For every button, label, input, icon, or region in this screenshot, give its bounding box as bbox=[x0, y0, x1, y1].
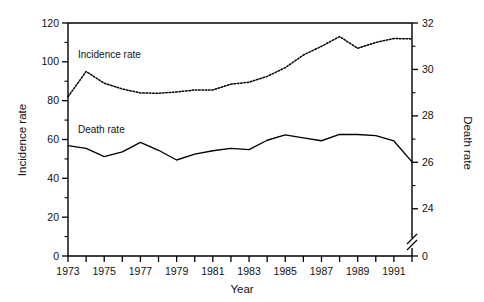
x-axis-title: Year bbox=[230, 283, 253, 295]
right-tick-label: 28 bbox=[422, 109, 434, 121]
x-tick-label: 1985 bbox=[274, 265, 298, 277]
x-tick-label: 1983 bbox=[237, 265, 261, 277]
x-tick-label: 1973 bbox=[56, 265, 80, 277]
left-tick-label: 80 bbox=[47, 94, 59, 106]
left-axis-tick-labels: 020406080100120 bbox=[41, 17, 59, 262]
y-axis-title-left: Incidence rate bbox=[16, 104, 28, 176]
incidence-rate-annotation: Incidence rate bbox=[78, 49, 141, 60]
right-tick-label-zero: 0 bbox=[422, 250, 428, 262]
chart-figure: 020406080100120 24262830320 197319751977… bbox=[0, 0, 484, 302]
left-tick-label: 100 bbox=[41, 55, 59, 67]
right-axis-tick-labels: 24262830320 bbox=[422, 17, 434, 262]
left-tick-label: 0 bbox=[53, 250, 59, 262]
left-tick-label: 20 bbox=[47, 211, 59, 223]
y-axis-title-right: Death rate bbox=[462, 116, 474, 170]
right-tick-label: 30 bbox=[422, 63, 434, 75]
series-line-incidence-rate bbox=[68, 37, 412, 97]
x-tick-label: 1989 bbox=[346, 265, 370, 277]
x-tick-label: 1991 bbox=[382, 265, 406, 277]
death-rate-annotation: Death rate bbox=[78, 124, 125, 135]
x-tick-label: 1979 bbox=[165, 265, 189, 277]
right-axis-ticks bbox=[412, 23, 418, 256]
x-axis-tick-labels: 1973197519771979198119831985198719891991 bbox=[56, 265, 405, 277]
dual-axis-line-chart: 020406080100120 24262830320 197319751977… bbox=[0, 0, 484, 302]
series-line-death-rate bbox=[68, 134, 412, 161]
right-tick-label: 24 bbox=[422, 202, 434, 214]
left-tick-label: 40 bbox=[47, 172, 59, 184]
x-tick-label: 1981 bbox=[201, 265, 225, 277]
x-tick-label: 1977 bbox=[129, 265, 153, 277]
x-axis-ticks bbox=[68, 256, 412, 262]
x-tick-label: 1975 bbox=[93, 265, 117, 277]
left-tick-label: 120 bbox=[41, 17, 59, 29]
x-tick-label: 1987 bbox=[310, 265, 334, 277]
left-tick-label: 60 bbox=[47, 133, 59, 145]
right-tick-label: 26 bbox=[422, 156, 434, 168]
left-axis-ticks bbox=[62, 23, 68, 256]
right-tick-label: 32 bbox=[422, 17, 434, 29]
